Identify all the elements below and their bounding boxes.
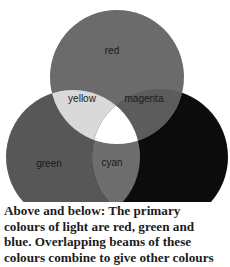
yellow-label: yellow (68, 93, 97, 104)
caption-line: blue. Overlapping beams of these (4, 234, 230, 250)
caption-line: Above and below: The primary (4, 203, 230, 219)
magenta-label: magenta (125, 93, 164, 104)
green-label: green (36, 158, 62, 169)
red-label: red (105, 45, 119, 56)
caption-line: colours of light are red, green and (4, 219, 230, 235)
figure-caption: Above and below: The primary colours of … (4, 203, 230, 265)
color-venn-diagram: red yellow magenta green cyan (0, 0, 230, 202)
cyan-label: cyan (101, 157, 122, 168)
caption-line: colours combine to give other colours (4, 250, 230, 266)
